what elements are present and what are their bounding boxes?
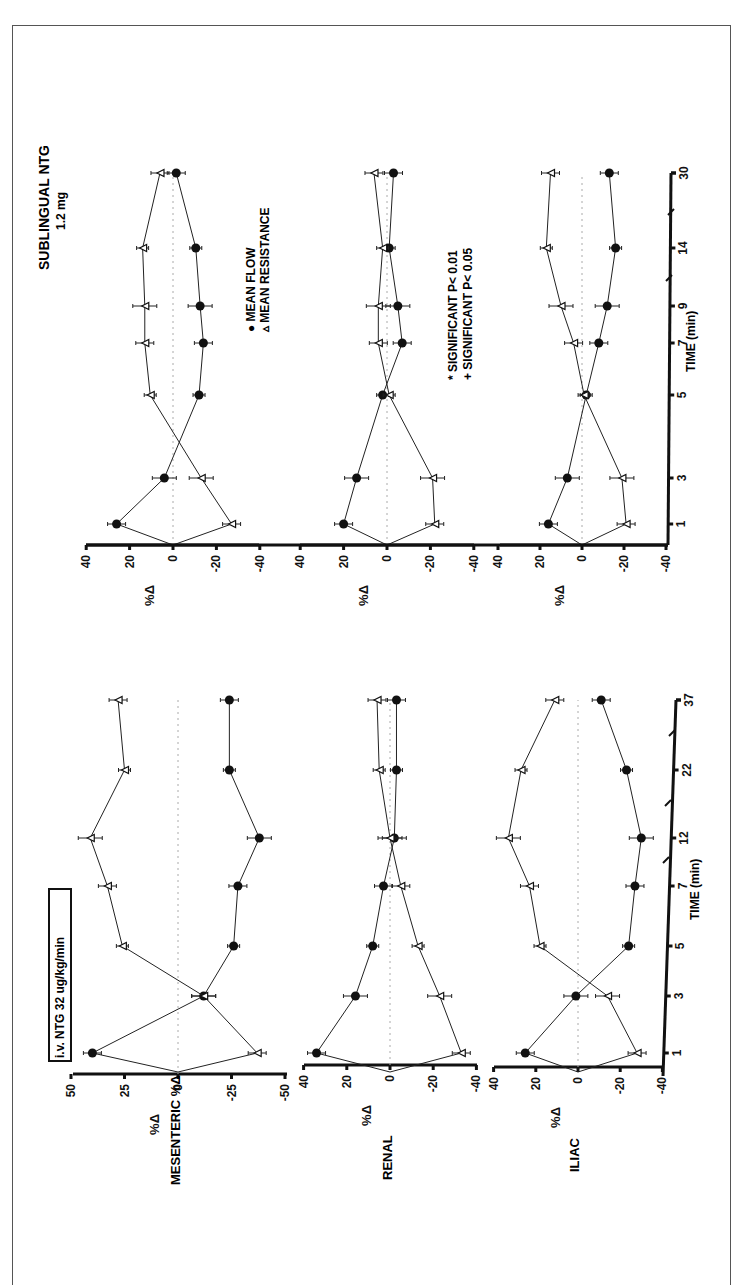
mean-flow-marker <box>312 1049 321 1058</box>
iv-mesenteric-panel: 50250-25-50%Δ <box>64 696 292 1135</box>
time-tick-label: 5 <box>673 942 687 949</box>
mean-flow-marker <box>225 766 234 775</box>
value-tick-label: -40 <box>659 555 673 573</box>
mean-flow-marker <box>199 339 208 348</box>
iv-renal-panel: 40200-20-40%Δ <box>297 696 484 1126</box>
value-tick-label: 40 <box>79 555 93 569</box>
percent-delta-label: %Δ <box>552 585 567 606</box>
mean-flow-marker <box>637 834 646 843</box>
mean-resistance-marker <box>386 392 393 399</box>
value-tick-label: 0 <box>571 1077 585 1084</box>
value-tick-label: 20 <box>529 1077 543 1091</box>
mean-flow-marker <box>112 520 121 529</box>
mean-flow-marker <box>339 520 348 529</box>
mean-resistance-marker <box>147 392 154 399</box>
open-triangle-icon: ▵ <box>258 323 272 332</box>
value-tick-label: 0 <box>166 555 180 562</box>
value-tick-label: -50 <box>278 1084 292 1102</box>
mean-flow-marker <box>368 942 377 951</box>
mean-resistance-marker <box>605 993 612 1000</box>
significance-p01: * SIGNIFICANT P< 0.01 <box>446 250 460 380</box>
significance-p05: + SIGNIFICANT P< 0.05 <box>461 248 475 380</box>
mean-resistance-marker <box>623 521 630 528</box>
value-tick-label: -20 <box>617 555 631 573</box>
time-tick-label: 37 <box>682 693 696 707</box>
row-label-iliac: ILIAC <box>567 1138 582 1172</box>
time-tick-label: 12 <box>677 831 691 845</box>
mean-resistance-marker <box>157 170 164 177</box>
x-axis-label-bottom: TIME (min) <box>688 859 702 920</box>
mean-resistance-line <box>374 173 435 545</box>
value-tick-label: 20 <box>123 555 137 569</box>
mean-flow-marker <box>630 882 639 891</box>
mean-resistance-marker <box>548 170 555 177</box>
right-title: SUBLINGUAL NTG <box>36 145 52 270</box>
time-tick-label: 9 <box>676 302 690 309</box>
mean-flow-line <box>344 173 403 545</box>
value-tick-label: 40 <box>293 555 307 569</box>
mean-resistance-marker <box>537 943 544 950</box>
value-tick-label: 25 <box>118 1084 132 1098</box>
value-tick-label: 0 <box>575 555 589 562</box>
value-tick-label: -25 <box>225 1084 239 1102</box>
right-subtitle: 1.2 mg <box>54 192 68 230</box>
sl-renal-panel: 40200-20-40%Δ <box>293 169 481 606</box>
mean-flow-marker <box>195 391 204 400</box>
mean-resistance-marker <box>415 943 422 950</box>
mean-flow-marker <box>611 244 620 253</box>
mean-resistance-marker <box>122 767 129 774</box>
value-tick-label: 40 <box>487 1077 501 1091</box>
mean-flow-marker <box>351 992 360 1001</box>
mean-flow-marker <box>160 474 169 483</box>
value-tick-label: -20 <box>613 1077 627 1095</box>
time-tick-label: 22 <box>680 763 694 777</box>
value-tick-label: 20 <box>533 555 547 569</box>
time-tick-label: 14 <box>676 241 690 255</box>
value-tick-label: -20 <box>423 555 437 573</box>
value-tick-label: 20 <box>340 1075 354 1089</box>
time-tick-label: 1 <box>674 520 688 527</box>
time-tick-label: 3 <box>672 992 686 999</box>
mean-resistance-marker <box>552 697 559 704</box>
mean-flow-marker <box>398 339 407 348</box>
mean-flow-marker <box>229 942 238 951</box>
mean-flow-marker <box>389 169 398 178</box>
value-tick-label: 50 <box>64 1084 78 1098</box>
mean-flow-marker <box>255 834 264 843</box>
mean-resistance-marker <box>380 245 387 252</box>
mean-flow-marker <box>191 244 200 253</box>
x-axis-label-top: TIME (min) <box>684 311 698 372</box>
mean-flow-line <box>117 173 204 545</box>
mean-resistance-marker <box>458 1050 465 1057</box>
mean-flow-marker <box>88 1049 97 1058</box>
mean-resistance-marker <box>518 767 525 774</box>
mean-flow-marker <box>563 474 572 483</box>
mean-flow-marker <box>352 474 361 483</box>
iv-ntg-label: i.v. NTG 32 ug/kg/min <box>53 937 67 1058</box>
time-tick-label: 5 <box>675 391 689 398</box>
time-tick-label: 1 <box>670 1049 684 1056</box>
mean-flow-marker <box>225 696 234 705</box>
mean-flow-marker <box>571 992 580 1001</box>
value-tick-label: -40 <box>469 1075 483 1093</box>
axis-break-icon <box>665 800 671 806</box>
filled-circle-icon: ● <box>244 321 258 332</box>
time-tick-label: 3 <box>675 474 689 481</box>
mean-flow-marker <box>597 696 606 705</box>
iv-ntg-label-box: i.v. NTG 32 ug/kg/min <box>48 888 72 1062</box>
axis-break-icon <box>663 857 669 863</box>
value-tick-label: 40 <box>491 555 505 569</box>
mean-flow-marker <box>196 302 205 311</box>
mean-resistance-line <box>143 173 232 545</box>
value-tick-label: -20 <box>209 555 223 573</box>
percent-delta-label: %Δ <box>356 585 371 606</box>
iv-iliac-panel: 40200-20-40%Δ <box>487 696 670 1128</box>
mean-flow-marker <box>233 882 242 891</box>
value-tick-label: 40 <box>297 1075 311 1089</box>
legend-resistance: ▵ MEAN RESISTANCE <box>258 208 272 332</box>
value-tick-label: 0 <box>383 1075 397 1082</box>
sl-mesenteric-panel: 40200-20-40%Δ <box>79 169 267 606</box>
mean-resistance-marker <box>432 521 439 528</box>
row-label-mesenteric: MESENTERIC %Δ <box>168 1075 183 1185</box>
